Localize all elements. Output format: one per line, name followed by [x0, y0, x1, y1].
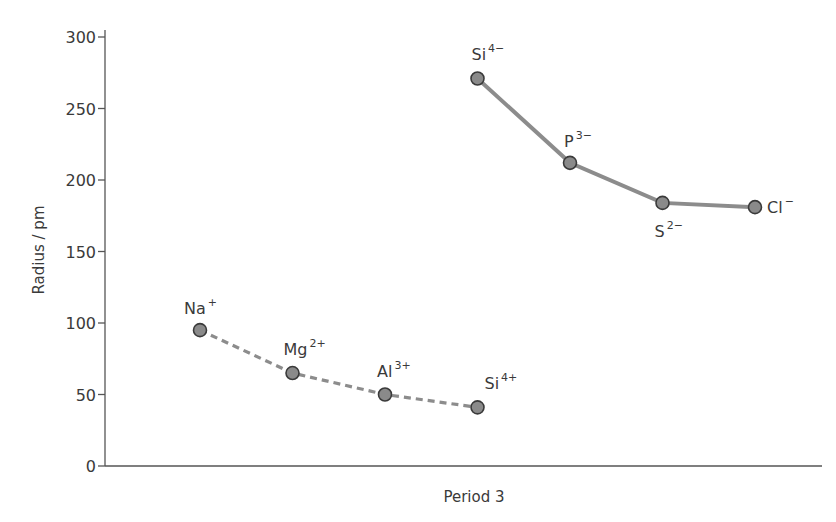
- y-axis-title: Radius / pm: [30, 205, 48, 294]
- data-point-cl: [749, 201, 762, 214]
- ionic-radius-chart: 050100150200250300 Na+Mg2+Al3+Si4+Si4−P3…: [0, 0, 836, 522]
- series-line: [478, 78, 756, 207]
- y-tick-label: 100: [65, 314, 96, 333]
- data-point-s: [656, 196, 669, 209]
- y-tick-label: 300: [65, 28, 96, 47]
- point-label: Al3+: [377, 359, 411, 381]
- series-layer: Na+Mg2+Al3+Si4+Si4−P3−S2−Cl−: [184, 42, 794, 413]
- data-point-p: [564, 156, 577, 169]
- y-tick-label: 150: [65, 243, 96, 262]
- x-axis-title: Period 3: [443, 488, 504, 506]
- point-label: Na+: [184, 296, 217, 318]
- series-cations: Na+Mg2+Al3+Si4+: [184, 296, 517, 414]
- series-line: [200, 330, 478, 407]
- point-label: S2−: [655, 219, 683, 241]
- point-label: Si4−: [472, 42, 505, 64]
- point-label: Si4+: [485, 371, 518, 393]
- data-point-al: [379, 388, 392, 401]
- point-label: Mg2+: [284, 337, 326, 359]
- y-tick-label: 50: [76, 386, 96, 405]
- series-anions: Si4−P3−S2−Cl−: [471, 42, 794, 240]
- y-tick-label: 250: [65, 100, 96, 119]
- data-point-si: [471, 72, 484, 85]
- y-tick-label: 200: [65, 171, 96, 190]
- data-point-si: [471, 401, 484, 414]
- point-label: P3−: [564, 129, 592, 151]
- point-label: Cl−: [767, 195, 794, 217]
- axes: 050100150200250300: [65, 28, 822, 476]
- data-point-mg: [286, 367, 299, 380]
- y-tick-label: 0: [86, 457, 96, 476]
- data-point-na: [194, 324, 207, 337]
